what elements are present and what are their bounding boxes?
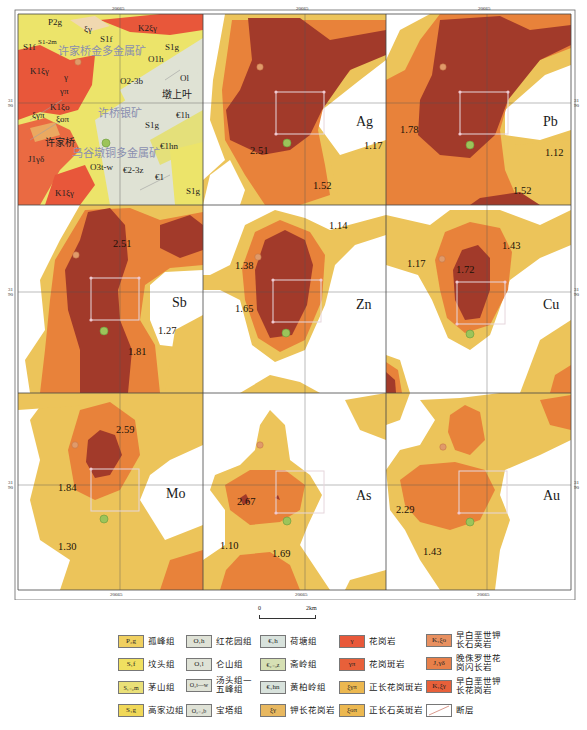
contour-value: 1.78 xyxy=(400,124,418,135)
legend-swatch: γπ xyxy=(339,658,365,671)
legend-item: O₂₋₃b 宝塔组 xyxy=(186,703,243,717)
contour-value: 1.10 xyxy=(220,540,238,551)
legend-label: 汤头组—五峰组 xyxy=(216,676,252,694)
legend-label: 正长石英斑岩 xyxy=(369,706,423,715)
legend-label: 茅山组 xyxy=(148,683,175,692)
contour-value: 1.65 xyxy=(235,303,253,314)
legend-item: €₁h 荷塘组 xyxy=(260,634,317,648)
legend-swatch: J₁γδ xyxy=(426,657,452,670)
tick-bottom-1: 20665 xyxy=(110,592,123,597)
legend-label: 高家边组 xyxy=(148,706,184,715)
unit-label: €2-3z xyxy=(123,165,144,175)
legend-item: J₁γδ 晚侏罗世花岗闪长岩 xyxy=(426,653,502,673)
panel-ag xyxy=(203,14,386,205)
tick-top-3: 20665 xyxy=(478,6,491,11)
town-label: 许家桥 xyxy=(45,134,75,149)
unit-label: ξoπ xyxy=(56,114,69,124)
fault-swatch xyxy=(426,704,452,717)
contour-value: 1.38 xyxy=(235,260,253,271)
legend-item: γπ 花岗斑岩 xyxy=(339,657,405,671)
legend-swatch: €₂₋₃z xyxy=(260,658,286,671)
legend-swatch: K₁ξγ xyxy=(426,680,452,693)
contour-value: 1.81 xyxy=(128,346,146,357)
contour-value: 2.29 xyxy=(396,504,414,515)
panel-pb xyxy=(386,14,571,205)
tick-left-1: 31 90 xyxy=(8,98,16,108)
legend-label: 花岗斑岩 xyxy=(369,660,405,669)
legend-swatch: O₃t—w xyxy=(186,679,212,692)
unit-label: J1γδ xyxy=(28,154,44,164)
contour-value: 1.43 xyxy=(423,546,441,557)
legend-item: S₁g 高家边组 xyxy=(118,703,184,717)
legend-label: 荷塘组 xyxy=(290,637,317,646)
legend-label: 仑山组 xyxy=(216,660,243,669)
legend-swatch: O₁l xyxy=(186,658,212,671)
tick-left-3: 31 90 xyxy=(8,480,16,490)
legend-label: 孤峰组 xyxy=(148,637,175,646)
tick-left-2: 31 90 xyxy=(8,287,16,297)
contour-value: 1.17 xyxy=(364,140,382,151)
legend-swatch: €₁hn xyxy=(260,681,286,694)
tick-top-1: 20665 xyxy=(112,6,125,11)
panel-label-zn: Zn xyxy=(356,297,372,313)
anomaly-map-figure: 20665 20665 20665 20665 20665 20665 31 9… xyxy=(0,0,587,600)
fault-line-icon xyxy=(427,705,451,716)
legend-item: O₃t—w 汤头组—五峰组 xyxy=(186,678,252,692)
legend-item: €₁hn 黄柏岭组 xyxy=(260,680,326,694)
legend-label: 宝塔组 xyxy=(216,706,243,715)
unit-label: γπ xyxy=(60,86,69,96)
legend-label: 正长花岗斑岩 xyxy=(369,683,423,692)
legend-label: 钾长花岗岩 xyxy=(290,706,335,715)
town-label: 墩上叶 xyxy=(162,86,192,101)
unit-label: K2ξγ xyxy=(138,23,157,33)
tick-top-2: 20665 xyxy=(296,6,309,11)
legend-swatch: ξoπ xyxy=(339,704,365,717)
unit-label: S1g xyxy=(145,120,159,130)
unit-label: K1ξγ xyxy=(55,188,74,198)
scale-end: 2km xyxy=(306,605,317,611)
panel-label-ag: Ag xyxy=(356,114,373,130)
legend-item: K₁ξγ 早白垩世钾长花岗岩 xyxy=(426,676,502,696)
legend-label: 早白垩世钾长石英岩 xyxy=(456,631,502,649)
tick-right-1: 31 90 xyxy=(574,98,582,108)
legend-label: 红花园组 xyxy=(216,637,252,646)
panel-label-sb: Sb xyxy=(172,295,187,311)
contour-value: 2.51 xyxy=(250,145,268,156)
unit-label: €1h xyxy=(176,110,190,120)
unit-label: K1ξγ xyxy=(30,66,49,76)
contour-value: 1.52 xyxy=(513,185,531,196)
legend-item: P₂g 孤峰组 xyxy=(118,634,175,648)
legend-item: O₁l 仑山组 xyxy=(186,657,243,671)
unit-label: P2g xyxy=(48,17,62,27)
scale-bar-line xyxy=(259,615,316,619)
unit-label: S1g xyxy=(165,42,179,52)
contour-value: 1.14 xyxy=(329,220,347,231)
contour-value: 1.30 xyxy=(58,541,76,552)
contour-value: 1.12 xyxy=(545,147,563,158)
tick-right-3: 31 90 xyxy=(574,480,582,490)
legend-label: 断层 xyxy=(456,706,474,715)
deposit-label: 乌谷墩铜多金属矿 xyxy=(72,144,160,160)
legend-label: 早白垩世钾长花岗岩 xyxy=(456,677,502,695)
tick-bottom-3: 20665 xyxy=(477,592,490,597)
legend-label: 晚侏罗世花岗闪长岩 xyxy=(456,654,502,672)
contour-value: 2.59 xyxy=(116,424,134,435)
contour-value: 1.84 xyxy=(58,482,76,493)
contour-value: 1.17 xyxy=(407,258,425,269)
legend-item: ξγπ 正长花岗斑岩 xyxy=(339,680,423,694)
legend-swatch: S₁f xyxy=(118,658,144,671)
legend-swatch: S₁₋₂m xyxy=(118,681,144,694)
contour-value: 1.43 xyxy=(502,240,520,251)
legend-item: ξγ 钾长花岗岩 xyxy=(260,703,335,717)
legend-swatch: P₂g xyxy=(118,635,144,648)
legend-item: γ 花岗岩 xyxy=(339,634,396,648)
legend-item: 断层 xyxy=(426,703,474,717)
contour-value: 1.69 xyxy=(272,548,290,559)
unit-label: S1-2m xyxy=(38,38,57,46)
legend: P₂g 孤峰组 S₁f 坟头组 S₁₋₂m 茅山组 S₁g 高家边组 O₁h 红… xyxy=(118,634,578,724)
unit-label: Ol xyxy=(180,73,189,83)
unit-label: S1f xyxy=(23,42,36,52)
legend-swatch: S₁g xyxy=(118,704,144,717)
legend-label: 斋岭组 xyxy=(290,660,317,669)
scale-bar: 0 2km xyxy=(258,605,318,621)
